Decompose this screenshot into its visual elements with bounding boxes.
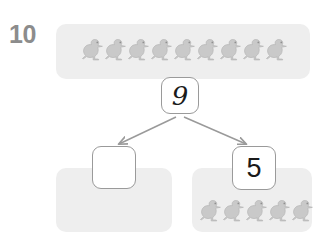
duck-icon [200,198,222,224]
duck-icon [269,198,291,224]
total-count-label: 10 [9,22,36,47]
duck-icon [82,37,104,63]
arrow-to-left-part [119,117,176,144]
part-right-number-box[interactable]: 5 [232,146,276,190]
part-right-group-counter-row [192,196,312,226]
duck-icon [151,37,173,63]
duck-icon [105,37,127,63]
duck-icon [128,37,150,63]
duck-icon [243,37,265,63]
duck-icon [220,37,242,63]
whole-group-counter-row [56,34,310,66]
worksheet-canvas: 10 9 5 [0,0,330,248]
duck-icon [266,37,288,63]
whole-number-box[interactable]: 9 [161,77,199,114]
arrow-to-right-part [184,117,246,144]
duck-icon [246,198,268,224]
duck-icon [174,37,196,63]
part-left-number-box[interactable] [92,146,136,189]
duck-icon [197,37,219,63]
duck-icon [292,198,314,224]
duck-icon [223,198,245,224]
